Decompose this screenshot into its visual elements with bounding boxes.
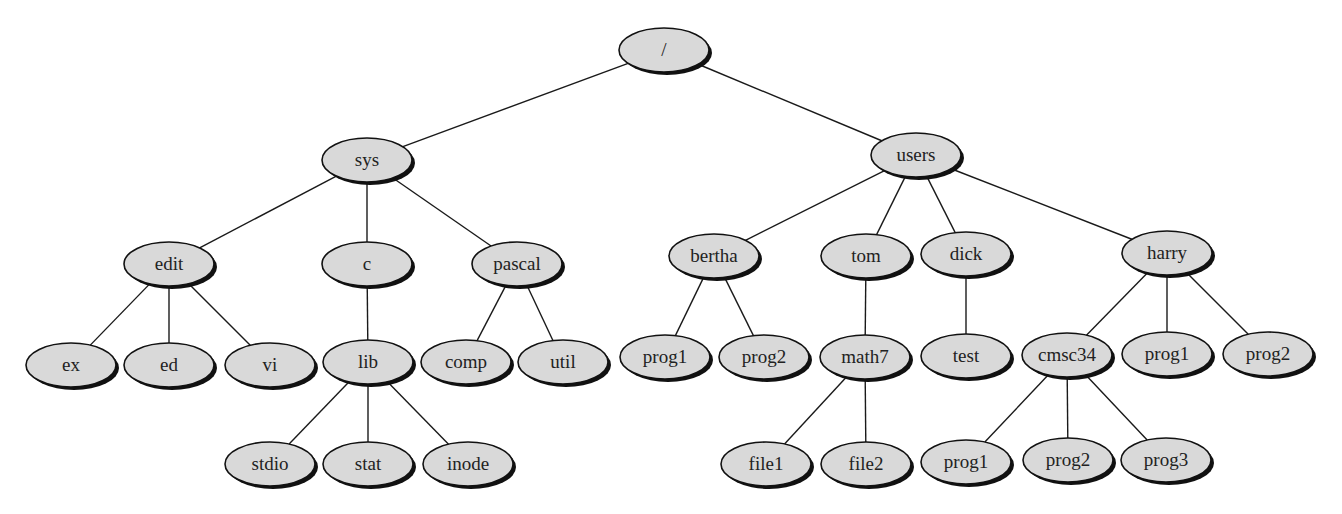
tree-node-bertha: bertha	[669, 234, 762, 281]
node-label: prog1	[1145, 343, 1189, 364]
edge-users-bertha	[745, 171, 884, 241]
edge-harry-cmsc34	[1086, 273, 1147, 335]
node-label: cmsc34	[1038, 344, 1097, 365]
edge-math7-file1	[785, 377, 847, 444]
tree-node-b_prog2: prog2	[719, 335, 812, 382]
tree-node-math7: math7	[820, 335, 913, 382]
edge-tom-math7	[865, 278, 866, 335]
node-label: comp	[445, 351, 487, 372]
edge-edit-vi	[189, 284, 250, 345]
tree-node-c_prog1: prog1	[921, 440, 1014, 487]
edge-c-lib	[367, 286, 368, 340]
node-label: prog3	[1144, 449, 1188, 470]
tree-node-pascal: pascal	[472, 242, 565, 289]
node-label: prog1	[643, 346, 687, 367]
node-label: test	[953, 345, 980, 366]
tree-node-c_prog2: prog2	[1023, 438, 1116, 485]
node-label: lib	[358, 351, 378, 372]
node-label: prog2	[1046, 449, 1090, 470]
tree-node-vi: vi	[225, 343, 318, 390]
node-label: file1	[749, 453, 784, 474]
node-label: tom	[851, 245, 881, 266]
tree-node-inode: inode	[423, 442, 516, 489]
node-label: prog2	[1246, 343, 1290, 364]
tree-node-dick: dick	[921, 232, 1014, 279]
tree-node-file2: file2	[821, 442, 914, 489]
tree-node-util: util	[518, 340, 611, 387]
edge-cmsc34-c_prog3	[1086, 375, 1147, 440]
tree-node-edit: edit	[124, 242, 217, 289]
node-label: users	[896, 144, 935, 165]
edge-sys-pascal	[393, 178, 491, 246]
edge-pascal-util	[527, 285, 553, 340]
node-label: math7	[841, 346, 889, 367]
node-label: bertha	[690, 245, 738, 266]
node-label: file2	[849, 453, 884, 474]
tree-node-harry: harry	[1122, 231, 1215, 278]
edge-edit-ex	[90, 284, 149, 345]
tree-node-stdio: stdio	[225, 442, 318, 489]
node-label: util	[550, 351, 575, 372]
edge-users-harry	[951, 169, 1132, 240]
tree-node-root: /	[619, 28, 712, 75]
edge-pascal-comp	[477, 285, 506, 340]
node-label: inode	[447, 453, 489, 474]
edge-cmsc34-c_prog2	[1067, 377, 1068, 438]
node-label: /	[661, 39, 667, 60]
tree-nodes: /sysuserseditcpascalexedvilibcomputilstd…	[26, 28, 1316, 489]
node-label: vi	[263, 354, 278, 375]
tree-node-c_prog3: prog3	[1121, 438, 1214, 485]
node-label: prog2	[742, 346, 786, 367]
edge-root-sys	[403, 63, 628, 146]
edge-math7-file2	[865, 379, 866, 442]
tree-node-h_prog2: prog2	[1223, 332, 1316, 379]
edge-bertha-b_prog1	[675, 277, 703, 335]
tree-node-b_prog1: prog1	[620, 335, 713, 382]
node-label: sys	[355, 149, 379, 170]
node-label: stdio	[252, 453, 289, 474]
tree-node-file1: file1	[721, 442, 814, 489]
tree-node-test: test	[921, 334, 1014, 381]
edge-lib-stdio	[289, 382, 349, 444]
edge-root-users	[698, 64, 882, 140]
edge-users-dick	[927, 176, 955, 232]
edge-users-tom	[877, 176, 906, 234]
edge-harry-h_prog2	[1187, 273, 1248, 334]
edge-lib-inode	[387, 382, 448, 444]
tree-node-c: c	[322, 242, 415, 289]
edge-cmsc34-c_prog1	[985, 375, 1048, 442]
node-label: ed	[160, 354, 178, 375]
node-label: edit	[155, 253, 184, 274]
edge-sys-edit	[200, 176, 337, 248]
tree-node-tom: tom	[821, 234, 914, 281]
node-label: c	[363, 253, 371, 274]
node-label: ex	[62, 354, 80, 375]
tree-node-comp: comp	[421, 340, 514, 387]
tree-node-ed: ed	[124, 343, 217, 390]
edge-bertha-b_prog2	[725, 277, 754, 335]
tree-node-h_prog1: prog1	[1122, 332, 1215, 379]
tree-node-ex: ex	[26, 343, 119, 390]
node-label: stat	[355, 453, 382, 474]
node-label: pascal	[493, 253, 540, 274]
directory-tree-diagram: /sysuserseditcpascalexedvilibcomputilstd…	[0, 0, 1342, 514]
tree-node-lib: lib	[323, 340, 416, 387]
node-label: prog1	[944, 451, 988, 472]
tree-node-sys: sys	[322, 138, 415, 185]
node-label: dick	[950, 243, 983, 264]
tree-node-stat: stat	[323, 442, 416, 489]
node-label: harry	[1147, 242, 1188, 263]
tree-node-users: users	[871, 133, 964, 180]
tree-node-cmsc34: cmsc34	[1022, 333, 1115, 380]
